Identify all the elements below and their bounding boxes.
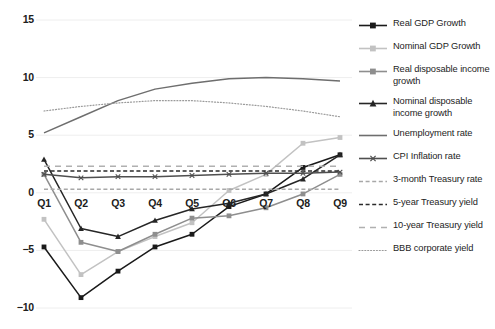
legend-key-icon [358,152,388,165]
data-point [116,269,121,274]
legend-item-label: Real disposable income growth [393,64,495,87]
legend-key-icon [358,221,388,234]
legend-item-5[interactable]: CPI Inflation rate [358,151,495,165]
data-point [227,213,232,218]
legend-item-2[interactable]: Real disposable income growth [358,64,495,87]
y-axis-tick-label: 15 [0,13,34,25]
legend-item-label: Unemployment rate [393,128,472,140]
data-point [42,245,47,250]
legend-key-icon [358,65,388,78]
legend-item-label: Nominal disposable income growth [393,96,495,119]
legend-item-3[interactable]: Nominal disposable income growth [358,96,495,119]
x-axis-tick-label: Q8 [290,197,316,209]
chart-page: 151050−5−10Q1Q2Q3Q4Q5Q6Q7Q8Q9 Real GDP G… [0,0,495,329]
legend-item-label: CPI Inflation rate [393,151,460,163]
legend-key-icon [358,42,388,55]
data-point [190,232,195,237]
data-point [42,217,47,222]
data-point [338,135,343,140]
legend-item-8[interactable]: 10-year Treasury yield [358,220,495,234]
legend-item-label: BBB corporate yield [393,243,473,255]
chart-legend: Real GDP GrowthNominal GDP GrowthReal di… [358,18,495,266]
data-point [41,156,47,161]
legend-item-label: 10-year Treasury yield [393,220,483,232]
legend-item-label: 3-month Treasury rate [393,174,482,186]
y-axis-tick-label: 5 [0,128,34,140]
legend-item-label: Nominal GDP Growth [393,41,480,53]
legend-key-icon [358,129,388,142]
chart-svg [0,0,355,329]
legend-item-4[interactable]: Unemployment rate [358,128,495,142]
x-axis-tick-label: Q7 [253,197,279,209]
legend-key-icon [358,244,388,257]
data-point [301,141,306,146]
plot-area: 151050−5−10Q1Q2Q3Q4Q5Q6Q7Q8Q9 [0,0,355,329]
data-point [79,240,84,245]
data-point [153,232,158,237]
legend-item-label: Real GDP Growth [393,18,466,30]
y-axis-tick-label: 10 [0,71,34,83]
legend-item-9[interactable]: BBB corporate yield [358,243,495,257]
y-axis-tick-label: −5 [0,243,34,255]
x-axis-tick-label: Q4 [142,197,168,209]
data-point [190,216,195,221]
data-point [79,272,84,277]
x-axis-tick-label: Q6 [216,197,242,209]
data-point [190,220,195,225]
x-axis-tick-label: Q9 [327,197,353,209]
data-point [301,192,306,197]
x-axis-tick-label: Q1 [31,197,57,209]
data-point [116,249,121,254]
y-axis-tick-label: 0 [0,186,34,198]
series-line-2 [44,174,340,251]
legend-key-icon [358,175,388,188]
legend-item-label: 5-year Treasury yield [393,197,478,209]
data-point [153,245,158,250]
y-axis-tick-label: −10 [0,301,34,313]
legend-key-icon [358,19,388,32]
legend-key-icon [358,198,388,211]
legend-item-6[interactable]: 3-month Treasury rate [358,174,495,188]
legend-key-icon [358,97,388,110]
x-axis-tick-label: Q5 [179,197,205,209]
x-axis-tick-label: Q2 [68,197,94,209]
legend-item-1[interactable]: Nominal GDP Growth [358,41,495,55]
data-point [79,295,84,300]
legend-item-0[interactable]: Real GDP Growth [358,18,495,32]
x-axis-tick-label: Q3 [105,197,131,209]
legend-item-7[interactable]: 5-year Treasury yield [358,197,495,211]
